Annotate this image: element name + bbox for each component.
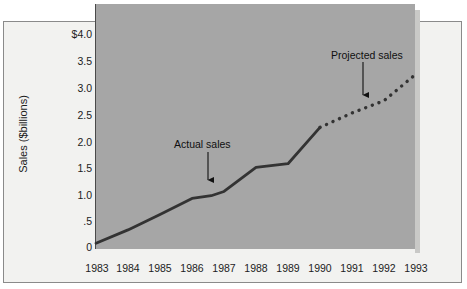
x-axis-tick-labels: 1983 1984 1985 1986 1987 1988 1989 1990 … bbox=[0, 262, 467, 282]
y-tick-label-3-0: 3.0 bbox=[46, 83, 92, 94]
plot-area bbox=[95, 4, 415, 249]
y-tick-label-2-5: 2.5 bbox=[46, 110, 92, 121]
y-tick-label-2-0: 2.0 bbox=[46, 137, 92, 148]
annotation-label-actual-sales: Actual sales bbox=[174, 138, 231, 150]
chart-figure: Sales ($billions) $4.0 3.5 3.0 2.5 2.0 1… bbox=[0, 0, 467, 289]
y-tick-label-1-0: 1.0 bbox=[46, 190, 92, 201]
x-tick-label-1993: 1993 bbox=[396, 262, 436, 274]
y-tick-label-4-0: $4.0 bbox=[46, 29, 92, 40]
y-tick-label-1-5: 1.5 bbox=[46, 163, 92, 174]
plot-area-shadow bbox=[415, 10, 420, 253]
y-axis-tick-labels: $4.0 3.5 3.0 2.5 2.0 1.5 1.0 .5 0 bbox=[40, 0, 92, 289]
y-tick-label-0: 0 bbox=[46, 242, 92, 253]
y-tick-label-3-5: 3.5 bbox=[46, 56, 92, 67]
y-tick-label-0-5: .5 bbox=[46, 216, 92, 227]
annotation-label-projected-sales: Projected sales bbox=[331, 49, 403, 61]
y-axis-title: Sales ($billions) bbox=[17, 64, 29, 204]
